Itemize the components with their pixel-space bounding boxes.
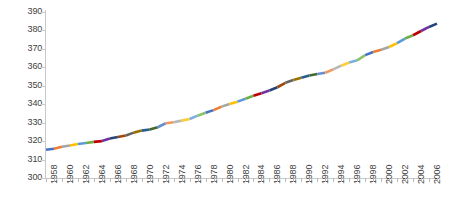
line-segment	[78, 143, 86, 144]
x-tick-mark	[317, 178, 318, 182]
line-segment	[285, 80, 293, 83]
x-tick-mark	[182, 178, 183, 182]
line-segment	[206, 110, 214, 113]
x-tick-label: 1982	[242, 165, 251, 184]
data-series-line	[0, 0, 449, 218]
line-segment	[397, 39, 405, 44]
x-tick-mark	[341, 178, 342, 182]
x-tick-mark	[325, 178, 326, 182]
y-axis-labels: 390380370360350340330320310300	[0, 0, 42, 218]
line-segment	[190, 116, 198, 119]
line-segment	[309, 74, 317, 75]
line-segment	[54, 147, 62, 149]
y-tick-label: 340	[28, 99, 42, 108]
x-tick-mark	[70, 178, 71, 182]
y-tick-mark	[41, 49, 45, 50]
x-tick-mark	[397, 178, 398, 182]
x-tick-mark	[277, 178, 278, 182]
y-tick-label: 300	[28, 173, 42, 182]
x-tick-mark	[94, 178, 95, 182]
x-tick-mark	[405, 178, 406, 182]
x-tick-mark	[245, 178, 246, 182]
x-tick-mark	[381, 178, 382, 182]
x-tick-mark	[309, 178, 310, 182]
line-segment	[317, 73, 325, 74]
x-tick-mark	[54, 178, 55, 182]
line-segment	[269, 87, 277, 90]
x-tick-mark	[333, 178, 334, 182]
x-tick-mark	[214, 178, 215, 182]
line-segment	[182, 119, 190, 121]
y-tick-mark	[41, 67, 45, 68]
line-segment	[389, 43, 397, 47]
x-tick-mark	[134, 178, 135, 182]
line-segment	[238, 99, 246, 102]
x-tick-mark	[349, 178, 350, 182]
y-tick-label: 360	[28, 62, 42, 71]
y-axis-line	[45, 10, 46, 179]
line-segment	[365, 52, 373, 55]
line-segment	[150, 127, 158, 129]
x-tick-mark	[190, 178, 191, 182]
line-segment	[94, 141, 102, 142]
x-tick-mark	[198, 178, 199, 182]
x-tick-mark	[86, 178, 87, 182]
x-tick-mark	[46, 178, 47, 182]
line-segment	[174, 121, 182, 123]
x-tick-mark	[373, 178, 374, 182]
x-tick-mark	[118, 178, 119, 182]
line-segment	[325, 69, 333, 72]
line-segment	[70, 144, 78, 145]
line-segment	[102, 139, 110, 142]
line-segment	[429, 24, 437, 27]
line-segment	[198, 113, 206, 116]
line-segment	[341, 63, 349, 66]
x-tick-mark	[253, 178, 254, 182]
co2-line-chart: 390380370360350340330320310300 195819601…	[0, 0, 449, 218]
y-tick-label: 330	[28, 118, 42, 127]
x-tick-mark	[102, 178, 103, 182]
x-tick-mark	[158, 178, 159, 182]
line-segment	[253, 93, 261, 96]
y-tick-mark	[41, 12, 45, 13]
x-tick-mark	[261, 178, 262, 182]
y-tick-mark	[41, 30, 45, 31]
x-tick-mark	[150, 178, 151, 182]
x-tick-mark	[166, 178, 167, 182]
x-tick-mark	[62, 178, 63, 182]
x-tick-mark	[142, 178, 143, 182]
x-tick-mark	[301, 178, 302, 182]
x-tick-mark	[437, 178, 438, 182]
line-segment	[421, 27, 429, 31]
x-tick-mark	[429, 178, 430, 182]
x-tick-mark	[413, 178, 414, 182]
line-segment	[373, 50, 381, 52]
x-tick-mark	[78, 178, 79, 182]
x-tick-mark	[174, 178, 175, 182]
line-segment	[293, 78, 301, 80]
x-tick-mark	[293, 178, 294, 182]
line-segment	[126, 133, 134, 136]
line-segment	[222, 104, 230, 107]
line-segment	[333, 66, 341, 70]
line-segment	[277, 83, 285, 87]
line-segment	[413, 31, 421, 35]
x-tick-mark	[357, 178, 358, 182]
line-segment	[214, 107, 222, 111]
x-tick-mark	[206, 178, 207, 182]
x-tick-mark	[421, 178, 422, 182]
line-segment	[349, 60, 357, 62]
y-tick-mark	[41, 123, 45, 124]
line-segment	[230, 102, 238, 104]
line-segment	[110, 137, 118, 138]
x-tick-mark	[285, 178, 286, 182]
y-tick-label: 370	[28, 44, 42, 53]
x-tick-mark	[222, 178, 223, 182]
y-tick-label: 310	[28, 155, 42, 164]
line-segment	[86, 142, 94, 143]
y-tick-label: 390	[28, 7, 42, 16]
line-segment	[381, 47, 389, 50]
line-segment	[261, 91, 269, 94]
y-tick-label: 380	[28, 25, 42, 34]
x-tick-mark	[110, 178, 111, 182]
